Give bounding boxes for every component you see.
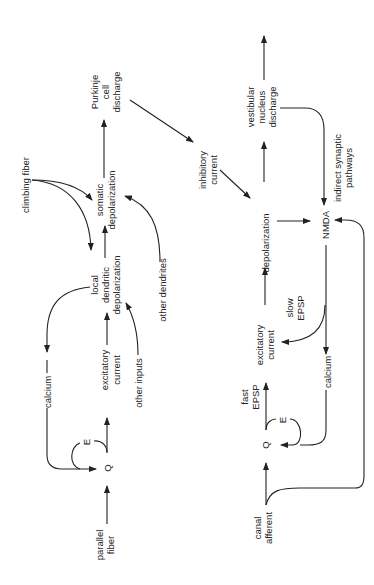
e-loop-left-arc xyxy=(72,443,80,469)
svg-text:fiber: fiber xyxy=(105,536,116,554)
svg-text:current: current xyxy=(208,155,219,185)
svg-text:depolarization: depolarization xyxy=(260,213,271,272)
svg-text:depolarization: depolarization xyxy=(106,170,117,229)
arrow-vestibular-to-nmda-indirect xyxy=(280,108,324,205)
fast-epsp-label: fast EPSP xyxy=(239,384,261,409)
svg-text:vestibular: vestibular xyxy=(245,87,256,128)
svg-text:fast: fast xyxy=(239,389,250,405)
arrow-local-dendritic-to-calcium xyxy=(47,287,90,352)
svg-text:cell: cell xyxy=(100,85,111,99)
arrow-other-inputs-to-local-dendritic xyxy=(126,303,138,355)
svg-text:current: current xyxy=(111,355,122,385)
nmda-label: NMDA xyxy=(320,210,331,239)
depolarization-label: depolarization xyxy=(260,213,271,272)
local-dendritic-depolarization-label: local dendritic depolarization xyxy=(89,255,122,314)
e-label-left: E xyxy=(81,439,92,445)
svg-text:inhibitory: inhibitory xyxy=(197,151,208,189)
svg-text:Q: Q xyxy=(102,464,113,471)
svg-text:canal: canal xyxy=(252,517,263,540)
calcium-label-left: calcium xyxy=(42,376,53,408)
svg-text:NMDA: NMDA xyxy=(320,210,331,239)
svg-text:afferent: afferent xyxy=(263,512,274,544)
neural-pathway-diagram: parallel fiber Q E excitatory current lo… xyxy=(0,0,374,585)
svg-text:local: local xyxy=(89,275,100,295)
q-node-left: Q xyxy=(102,464,113,471)
slow-epsp-label: slow EPSP xyxy=(284,295,306,320)
inhibitory-current-label: inhibitory current xyxy=(197,151,219,189)
svg-text:Q: Q xyxy=(260,441,271,448)
e-label-right: E xyxy=(277,417,288,423)
excitatory-current-label-right: excitatory current xyxy=(254,324,276,365)
indirect-synaptic-pathways-label: indirect synaptic pathways xyxy=(332,134,354,202)
svg-text:discharge: discharge xyxy=(111,71,122,112)
calcium-label-right: calcium xyxy=(322,356,333,388)
arrow-other-dendrites-to-somatic xyxy=(125,196,160,262)
svg-text:EPSP: EPSP xyxy=(295,295,306,320)
arrow-purkinje-to-inhibitory xyxy=(130,100,193,142)
svg-text:dendritic: dendritic xyxy=(100,267,111,303)
svg-text:excitatory: excitatory xyxy=(99,349,110,390)
climbing-fiber-label: climbing fiber xyxy=(20,157,31,213)
svg-text:EPSP: EPSP xyxy=(250,384,261,409)
svg-text:discharge: discharge xyxy=(267,86,278,127)
arrow-climbing-fiber-to-local-dendritic xyxy=(32,180,91,250)
svg-text:E: E xyxy=(277,417,288,423)
arrow-canal-afferent-to-nmda xyxy=(266,220,364,505)
svg-text:calcium: calcium xyxy=(322,356,333,388)
arrow-climbing-fiber-to-somatic xyxy=(32,180,92,200)
purkinje-cell-discharge-label: Purkinje cell discharge xyxy=(89,71,122,112)
svg-text:excitatory: excitatory xyxy=(254,324,265,365)
somatic-depolarization-label: somatic depolarization xyxy=(94,170,117,229)
parallel-fiber-label: parallel fiber xyxy=(94,530,116,561)
other-dendrites-label: other dendrites xyxy=(157,258,168,322)
svg-text:pathways: pathways xyxy=(343,148,354,188)
excitatory-current-label-left: excitatory current xyxy=(99,349,122,390)
svg-text:depolarization: depolarization xyxy=(111,255,122,314)
svg-text:somatic: somatic xyxy=(94,183,105,216)
canal-afferent-label: canal afferent xyxy=(252,512,274,544)
vestibular-nucleus-discharge-label: vestibular nucleus discharge xyxy=(245,86,278,127)
svg-text:slow: slow xyxy=(284,298,295,317)
e-loop-left xyxy=(94,441,107,453)
svg-text:climbing fiber: climbing fiber xyxy=(20,157,31,213)
q-node-right: Q xyxy=(260,441,271,448)
svg-text:parallel: parallel xyxy=(94,530,105,561)
svg-text:Purkinje: Purkinje xyxy=(89,75,100,109)
arrow-calcium-to-q-right xyxy=(300,390,326,445)
svg-text:other inputs: other inputs xyxy=(133,358,144,408)
svg-text:other dendrites: other dendrites xyxy=(157,258,168,322)
other-inputs-label: other inputs xyxy=(133,358,144,408)
svg-text:nucleus: nucleus xyxy=(256,90,267,123)
svg-text:indirect synaptic: indirect synaptic xyxy=(332,134,343,202)
svg-text:calcium: calcium xyxy=(42,376,53,408)
svg-text:current: current xyxy=(265,330,276,360)
svg-text:E: E xyxy=(81,439,92,445)
arrow-inhibitory-to-depolarization xyxy=(220,170,250,198)
